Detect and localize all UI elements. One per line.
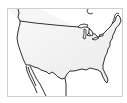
us-outline-map (0, 0, 127, 103)
map-container (0, 0, 127, 103)
